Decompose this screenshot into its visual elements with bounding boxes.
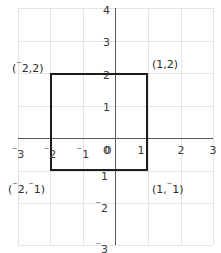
y-tick-label-neg2: ⁻2 bbox=[92, 199, 108, 214]
paren-close: ) bbox=[179, 183, 183, 196]
minus-sign-icon: ⁻ bbox=[95, 199, 100, 210]
paren-close: ) bbox=[174, 58, 178, 71]
vertex-label-top-right: (1,2) bbox=[152, 59, 178, 70]
y-tick-label-1: 1 bbox=[94, 102, 110, 113]
y-tick-digit: 1 bbox=[101, 170, 108, 183]
y-tick-digit: 2 bbox=[103, 69, 110, 82]
x-tick-digit: 1 bbox=[82, 148, 89, 161]
x-tick-label-1: 1 bbox=[131, 145, 151, 156]
plotted-rectangle bbox=[50, 73, 148, 171]
y-tick-label-neg3: ⁻3 bbox=[92, 240, 108, 253]
coordinate-plane: ⁻3 ⁻2 ⁻1 0 1 2 3 4 3 2 1 0 ⁻1 ⁻2 ⁻3 (⁻2,… bbox=[0, 0, 221, 253]
y-tick-digit: 1 bbox=[103, 101, 110, 114]
gridline-vertical-x-1 bbox=[148, 8, 149, 245]
gridline-vertical-x-3 bbox=[213, 8, 214, 245]
y-tick-digit: 4 bbox=[103, 4, 110, 17]
x-tick-label-3: 3 bbox=[203, 145, 221, 156]
vertex-label-bottom-left: (⁻2,⁻1) bbox=[8, 180, 45, 195]
y-tick-digit: 3 bbox=[103, 36, 110, 49]
x-tick-digit: 3 bbox=[210, 144, 217, 157]
minus-sign-icon: ⁻ bbox=[12, 180, 17, 191]
x-tick-label-2: 2 bbox=[171, 145, 191, 156]
y-tick-digit: 3 bbox=[101, 243, 108, 253]
paren-close: ) bbox=[39, 62, 43, 75]
y-tick-label-0: 0 bbox=[94, 145, 110, 156]
vertex-label-bottom-right: (1,⁻1) bbox=[152, 180, 184, 195]
x-tick-label-neg1: ⁻1 bbox=[73, 145, 93, 160]
gridline-horizontal-y-neg3 bbox=[18, 245, 213, 246]
vertex-x-value: 2 bbox=[22, 62, 29, 75]
y-tick-label-4: 4 bbox=[94, 5, 110, 16]
vertex-label-top-left: (⁻2,2) bbox=[12, 59, 44, 74]
x-tick-label-neg3: ⁻3 bbox=[8, 145, 28, 160]
x-tick-label-neg2: ⁻2 bbox=[40, 145, 60, 160]
vertex-x-value: 2 bbox=[18, 183, 25, 196]
minus-sign-icon: ⁻ bbox=[95, 240, 100, 251]
x-tick-digit: 3 bbox=[17, 148, 24, 161]
x-tick-digit: 2 bbox=[49, 148, 56, 161]
vertex-y-value: 2 bbox=[167, 58, 174, 71]
y-tick-digit: 2 bbox=[101, 202, 108, 215]
y-tick-label-2: 2 bbox=[94, 70, 110, 81]
gridline-vertical-x-neg3 bbox=[18, 8, 19, 245]
paren-close: ) bbox=[41, 183, 45, 196]
minus-sign-icon: ⁻ bbox=[28, 180, 33, 191]
x-tick-digit: 1 bbox=[138, 144, 145, 157]
y-tick-digit: 0 bbox=[103, 144, 110, 157]
gridline-vertical-x-2 bbox=[181, 8, 182, 245]
y-tick-label-3: 3 bbox=[94, 37, 110, 48]
minus-sign-icon: ⁻ bbox=[16, 59, 21, 70]
y-tick-label-neg1: ⁻1 bbox=[92, 167, 108, 182]
vertex-y-value: 1 bbox=[34, 183, 41, 196]
minus-sign-icon: ⁻ bbox=[95, 167, 100, 178]
x-tick-digit: 2 bbox=[178, 144, 185, 157]
